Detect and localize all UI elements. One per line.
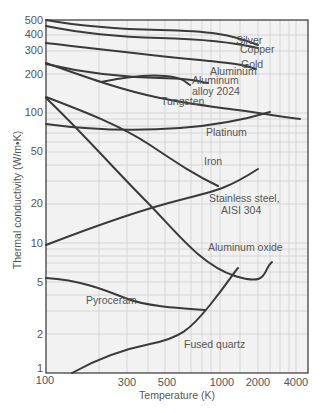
x-tick: 100 — [36, 374, 54, 386]
x-tick: 500 — [158, 376, 176, 388]
label-stainless-line2: AISI 304 — [221, 204, 261, 216]
thermal-conductivity-chart: Silver Copper Gold Aluminum Aluminum all… — [0, 0, 326, 413]
y-tick: 300 — [25, 44, 43, 56]
y-tick: 1 — [37, 362, 43, 374]
label-fused-quartz: Fused quartz — [184, 338, 245, 350]
y-tick: 50 — [31, 145, 43, 157]
x-tick: 4000 — [284, 376, 308, 388]
x-tick-labels: 100 300 500 1000 2000 4000 — [36, 374, 308, 388]
y-tick: 100 — [25, 106, 43, 118]
x-tick: 2000 — [246, 376, 270, 388]
x-tick: 1000 — [210, 376, 234, 388]
y-axis-title: Thermal conductivity (W/m•K) — [11, 131, 23, 269]
x-axis-title: Temperature (K) — [139, 389, 215, 401]
y-tick: 400 — [25, 28, 43, 40]
label-pyroceram: Pyroceram — [86, 294, 137, 306]
label-iron: Iron — [204, 155, 222, 167]
label-copper: Copper — [240, 43, 275, 55]
y-tick: 5 — [37, 276, 43, 288]
y-tick: 500 — [25, 14, 43, 26]
y-tick: 10 — [31, 237, 43, 249]
label-platinum: Platinum — [206, 126, 247, 138]
y-tick: 200 — [25, 68, 43, 80]
x-tick: 300 — [118, 376, 136, 388]
label-aluminum-oxide: Aluminum oxide — [208, 241, 283, 253]
y-tick: 2 — [37, 328, 43, 340]
y-tick-labels: 500 400 300 200 100 50 20 10 5 2 1 — [25, 14, 43, 374]
label-stainless-line1: Stainless steel, — [209, 192, 280, 204]
label-tungsten: Tungsten — [161, 95, 205, 107]
y-tick: 20 — [31, 197, 43, 209]
